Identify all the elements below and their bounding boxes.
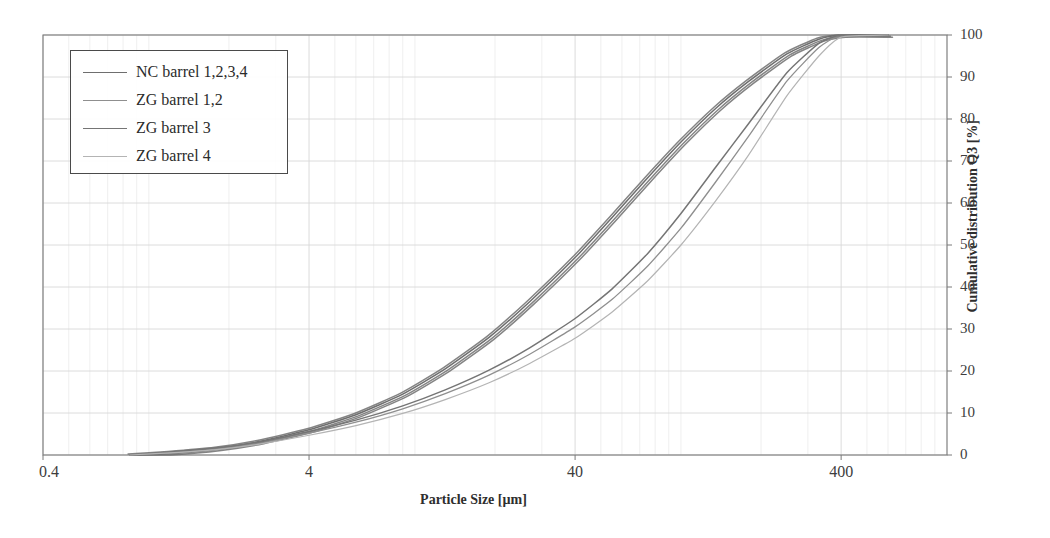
legend-item-label: ZG barrel 3 <box>136 120 211 136</box>
legend-swatch-line <box>83 72 127 73</box>
legend-item-label: ZG barrel 4 <box>136 148 211 164</box>
x-tick-label: 4 <box>289 463 329 481</box>
y-tick-label: 10 <box>960 404 975 421</box>
y-tick-label: 100 <box>960 26 983 43</box>
legend-item-label: NC barrel 1,2,3,4 <box>136 64 248 80</box>
legend-item: ZG barrel 1,2 <box>71 86 287 114</box>
legend-swatch-line <box>83 100 127 101</box>
y-tick-label: 60 <box>960 194 975 211</box>
legend-swatch-line <box>83 156 127 157</box>
legend-item: ZG barrel 3 <box>71 114 287 142</box>
y-tick-label: 70 <box>960 152 975 169</box>
y-tick-label: 20 <box>960 362 975 379</box>
y-tick-label: 80 <box>960 110 975 127</box>
legend-item-label: ZG barrel 1,2 <box>136 92 223 108</box>
y-tick-label: 90 <box>960 68 975 85</box>
legend-item: ZG barrel 4 <box>71 142 287 170</box>
y-tick-label: 0 <box>960 446 968 463</box>
chart-figure: Cumulative distribution Q3 [%] Particle … <box>0 0 1050 538</box>
legend-swatch-line <box>83 128 127 129</box>
y-tick-label: 40 <box>960 278 975 295</box>
x-tick-label: 0.4 <box>39 463 59 481</box>
x-tick-label: 40 <box>555 463 595 481</box>
y-tick-label: 50 <box>960 236 975 253</box>
x-axis-title: Particle Size [µm] <box>0 492 947 508</box>
x-tick-label: 400 <box>821 463 861 481</box>
chart-legend: NC barrel 1,2,3,4 ZG barrel 1,2 ZG barre… <box>70 50 288 174</box>
y-tick-label: 30 <box>960 320 975 337</box>
legend-item: NC barrel 1,2,3,4 <box>71 58 287 86</box>
